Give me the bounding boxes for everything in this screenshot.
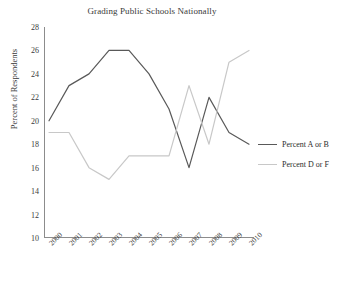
chart-title: Grading Public Schools Nationally — [47, 6, 257, 16]
y-tick-label: 14 — [31, 187, 39, 196]
y-tick-label: 18 — [31, 140, 39, 149]
legend-line-swatch — [258, 144, 277, 145]
legend-label: Percent D or F — [282, 160, 329, 169]
y-tick-label: 10 — [31, 234, 39, 243]
y-tick-label: 22 — [31, 93, 39, 102]
legend-label: Percent A or B — [282, 140, 329, 149]
plot-area: 10121416182022242628 2000200120022003200… — [44, 27, 254, 238]
y-tick-label: 26 — [31, 46, 39, 55]
legend-entry[interactable]: Percent D or F — [258, 154, 353, 174]
series-lines — [44, 27, 254, 238]
y-axis-title: Percent of Respondents — [9, 19, 19, 159]
chart-figure: Grading Public Schools Nationally Percen… — [0, 0, 355, 284]
y-tick-label: 20 — [31, 116, 39, 125]
y-tick-label: 24 — [31, 69, 39, 78]
y-tick-label: 12 — [31, 210, 39, 219]
legend-line-swatch — [258, 164, 277, 165]
chart-legend: Percent A or BPercent D or F — [258, 134, 353, 174]
y-tick-label: 16 — [31, 163, 39, 172]
y-tick-label: 28 — [31, 23, 39, 32]
legend-entry[interactable]: Percent A or B — [258, 134, 353, 154]
